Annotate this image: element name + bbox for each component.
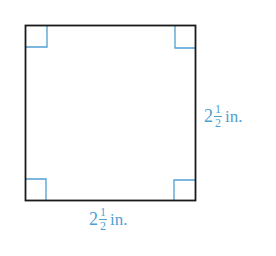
- fraction: 1 2: [99, 207, 107, 232]
- right-angle-mark-bottom-left: [26, 179, 46, 200]
- numerator: 1: [100, 207, 106, 218]
- denominator: 2: [100, 221, 106, 232]
- whole-number: 2: [204, 106, 213, 127]
- numerator: 1: [215, 104, 221, 115]
- unit: in.: [110, 210, 127, 230]
- denominator: 2: [215, 118, 221, 129]
- right-angle-mark-top-right: [175, 26, 195, 48]
- square-outline: [26, 26, 196, 201]
- side-length-label-right: 2 1 2 in.: [204, 104, 242, 129]
- unit: in.: [225, 107, 242, 127]
- side-length-label-bottom: 2 1 2 in.: [89, 207, 127, 232]
- whole-number: 2: [89, 209, 98, 230]
- fraction: 1 2: [214, 104, 222, 129]
- right-angle-mark-bottom-right: [174, 180, 195, 200]
- right-angle-mark-top-left: [26, 26, 47, 47]
